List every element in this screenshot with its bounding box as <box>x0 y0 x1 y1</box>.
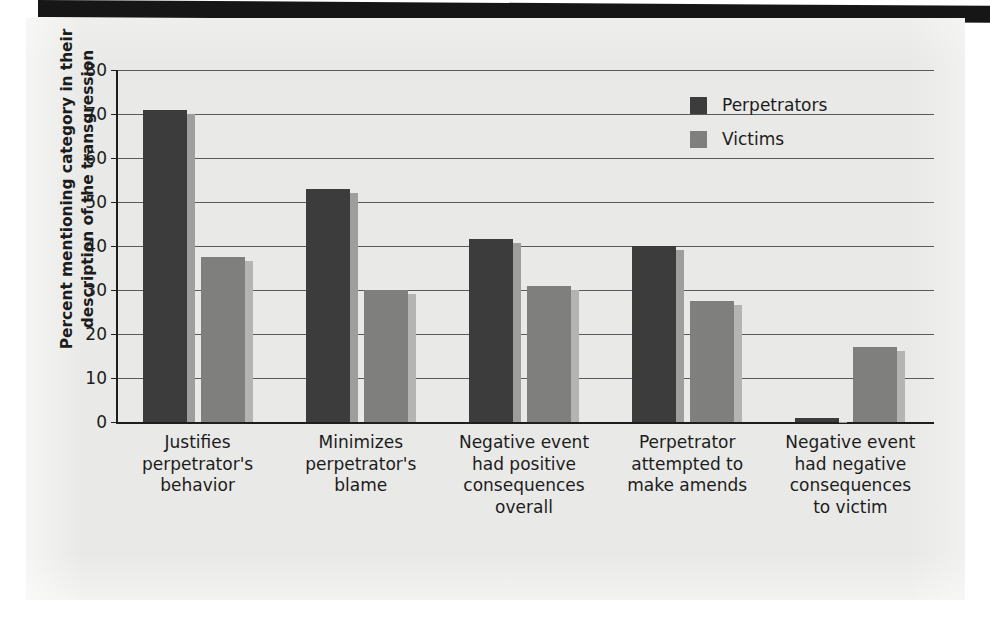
bar-perpetrators-0 <box>143 110 187 422</box>
legend-swatch-icon <box>690 97 707 114</box>
bar-shadow-edge <box>408 294 416 422</box>
bar-shadow-edge <box>350 193 358 422</box>
bar-shadow-edge <box>897 351 905 422</box>
bar-body <box>201 257 245 422</box>
legend-item-perpetrators[interactable]: Perpetrators <box>690 95 827 115</box>
bar-shadow-edge <box>571 290 579 422</box>
category-label-line: Minimizes <box>283 432 438 454</box>
x-axis-category-labels: Justifiesperpetrator'sbehaviorMinimizesp… <box>116 432 932 518</box>
category-label-line: perpetrator's <box>120 454 275 476</box>
bar-body <box>853 347 897 422</box>
category-label-line: consequences <box>773 475 928 497</box>
bar-victims-3 <box>690 301 734 422</box>
bar-perpetrators-1 <box>306 189 350 422</box>
x-axis-category-label-4: Negative eventhad negativeconsequencesto… <box>769 432 932 518</box>
y-axis-tick <box>111 114 118 115</box>
y-axis-tick <box>111 422 118 423</box>
figure-root: Percent mentioning category in their des… <box>0 0 990 630</box>
bar-shadow-edge <box>245 261 253 422</box>
bar-body <box>632 246 676 422</box>
category-label-line: had negative <box>773 454 928 476</box>
category-label-line: behavior <box>120 475 275 497</box>
category-label-line: attempted to <box>610 454 765 476</box>
x-axis-category-label-3: Perpetratorattempted tomake amends <box>606 432 769 518</box>
chart-legend: PerpetratorsVictims <box>690 95 827 163</box>
x-axis-category-label-1: Minimizesperpetrator'sblame <box>279 432 442 518</box>
legend-item-label: Perpetrators <box>722 95 827 115</box>
y-axis-tick <box>111 334 118 335</box>
y-axis-tick <box>111 202 118 203</box>
bar-perpetrators-4 <box>795 418 839 422</box>
x-axis-category-label-2: Negative eventhad positiveconsequencesov… <box>442 432 605 518</box>
bar-body <box>527 286 571 422</box>
y-axis-tick-label: 70 <box>85 104 107 124</box>
y-axis-tick-label: 50 <box>85 192 107 212</box>
bar-perpetrators-3 <box>632 246 676 422</box>
bar-victims-2 <box>527 286 571 422</box>
legend-item-label: Victims <box>722 129 784 149</box>
bar-perpetrators-2 <box>469 239 513 422</box>
y-axis-tick <box>111 246 118 247</box>
category-label-line: Perpetrator <box>610 432 765 454</box>
category-label-line: blame <box>283 475 438 497</box>
category-label-line: perpetrator's <box>283 454 438 476</box>
category-label-line: make amends <box>610 475 765 497</box>
bar-body <box>795 418 839 422</box>
bar-shadow-edge <box>734 305 742 422</box>
category-label-line: Justifies <box>120 432 275 454</box>
y-axis-tick-label: 10 <box>85 368 107 388</box>
x-axis-category-label-0: Justifiesperpetrator'sbehavior <box>116 432 279 518</box>
bar-shadow-edge <box>187 114 195 422</box>
y-axis-tick-label: 0 <box>96 412 107 432</box>
category-label-line: to victim <box>773 497 928 519</box>
y-axis-tick-label: 20 <box>85 324 107 344</box>
category-label-line: overall <box>446 497 601 519</box>
category-label-line: had positive <box>446 454 601 476</box>
category-label-line: Negative event <box>446 432 601 454</box>
bar-body <box>690 301 734 422</box>
y-axis-tick-label: 30 <box>85 280 107 300</box>
bar-victims-1 <box>364 290 408 422</box>
y-axis-tick <box>111 290 118 291</box>
bar-body <box>469 239 513 422</box>
y-axis-title-line-1: Percent mentioning category in their <box>57 0 78 389</box>
bar-body <box>306 189 350 422</box>
bar-victims-0 <box>201 257 245 422</box>
bar-shadow-edge <box>513 243 521 422</box>
bar-body <box>143 110 187 422</box>
category-label-line: consequences <box>446 475 601 497</box>
bar-body <box>364 290 408 422</box>
category-label-line: Negative event <box>773 432 928 454</box>
y-axis-tick <box>111 70 118 71</box>
y-axis-tick-label: 60 <box>85 148 107 168</box>
bar-victims-4 <box>853 347 897 422</box>
y-axis-tick <box>111 378 118 379</box>
y-axis-tick-label: 80 <box>85 60 107 80</box>
legend-swatch-icon <box>690 131 707 148</box>
bar-shadow-edge <box>676 250 684 422</box>
y-axis-tick-label: 40 <box>85 236 107 256</box>
y-axis-tick <box>111 158 118 159</box>
legend-item-victims[interactable]: Victims <box>690 129 827 149</box>
